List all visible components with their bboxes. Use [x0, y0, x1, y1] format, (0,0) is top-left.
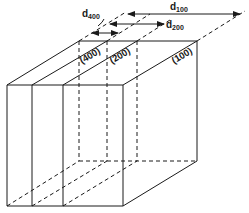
- d400-leader: [98, 19, 104, 26]
- d400-label: d400: [82, 8, 100, 20]
- plane-front-edges: [32, 85, 63, 206]
- plane-100-label: (100): [169, 45, 194, 66]
- plane-200-label: (200): [107, 45, 132, 66]
- d200-label: d200: [166, 19, 184, 31]
- top-edges: [7, 41, 197, 85]
- lattice-plane-diagram: d400 d200 d100 (400) (200) (100): [0, 0, 249, 213]
- cube-drawing: d400 d200 d100 (400) (200) (100): [0, 0, 249, 213]
- hidden-edges: [7, 41, 197, 206]
- plane-400-label: (400): [77, 45, 102, 66]
- front-face: [7, 85, 123, 206]
- extension-lines: [79, 11, 245, 41]
- plane-labels: (400) (200) (100): [77, 45, 194, 66]
- spacing-labels: d400 d200 d100: [82, 1, 188, 31]
- d100-label: d100: [170, 1, 188, 13]
- right-face: [123, 41, 197, 206]
